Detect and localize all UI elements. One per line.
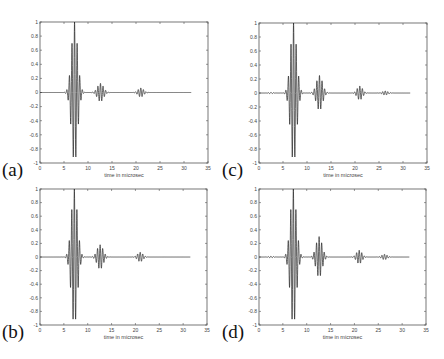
x-axis-label: time in microsec: [323, 334, 363, 340]
y-tick-label: -1: [253, 322, 258, 328]
x-tick-label: 35: [423, 327, 429, 333]
y-tick-label: 0: [254, 254, 257, 260]
y-tick-label: 0.2: [250, 240, 257, 246]
x-tick-label: 10: [304, 327, 310, 333]
panel-label-d: (d): [222, 322, 244, 341]
x-tick-label: 15: [328, 327, 334, 333]
x-tick-label: 20: [352, 327, 358, 333]
y-tick-label: 0.4: [250, 227, 257, 233]
y-tick-label: -0.4: [248, 281, 257, 287]
x-tick-label: 25: [376, 327, 382, 333]
waveform-chart-d: 0510152025303510.80.60.40.20-0.2-0.4-0.6…: [0, 0, 444, 359]
y-tick-label: 0.8: [250, 199, 257, 205]
y-tick-label: -0.6: [248, 295, 257, 301]
y-tick-label: 0.6: [250, 213, 257, 219]
x-tick-label: 30: [399, 327, 405, 333]
x-tick-label: 0: [258, 327, 261, 333]
waveform-line: [259, 189, 409, 319]
x-tick-label: 5: [281, 327, 284, 333]
y-tick-label: -0.8: [248, 308, 257, 314]
y-tick-label: 1: [254, 186, 257, 192]
y-tick-label: -0.2: [248, 267, 257, 273]
